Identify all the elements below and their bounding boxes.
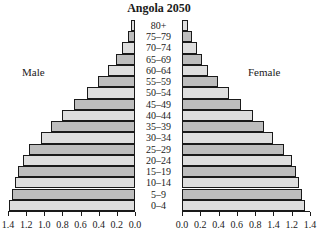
male-axis-tick-label: 0.2 bbox=[111, 219, 124, 230]
pyramid-row: 50–54 bbox=[0, 87, 318, 98]
female-bar bbox=[182, 177, 299, 188]
male-bar bbox=[128, 31, 135, 42]
pyramid-bars: 80+75–7970–7465–6960–6455–5950–5445–4940… bbox=[0, 20, 318, 211]
pyramid-row: 15–19 bbox=[0, 166, 318, 177]
pyramid-row: 30–34 bbox=[0, 132, 318, 143]
age-group-label: 75–79 bbox=[135, 31, 182, 42]
male-axis-tick-label: 0.0 bbox=[129, 219, 142, 230]
axis-tick bbox=[99, 212, 100, 216]
female-bar bbox=[182, 99, 241, 110]
male-axis-tick-label: 0.4 bbox=[92, 219, 105, 230]
male-bar bbox=[87, 87, 135, 98]
male-bar bbox=[41, 132, 135, 143]
axis-tick bbox=[135, 212, 136, 216]
male-axis-tick-label: 0.8 bbox=[56, 219, 69, 230]
male-bar bbox=[29, 144, 135, 155]
age-group-label: 30–34 bbox=[135, 132, 182, 143]
female-bar bbox=[182, 189, 302, 200]
male-axis-tick-label: 1.4 bbox=[2, 219, 15, 230]
axis-tick bbox=[273, 212, 274, 216]
male-bar bbox=[74, 99, 135, 110]
male-axis-tick-label: 1.0 bbox=[38, 219, 51, 230]
age-group-label: 25–29 bbox=[135, 144, 182, 155]
female-bar bbox=[182, 42, 197, 53]
male-bar bbox=[51, 121, 135, 132]
female-axis-tick-label: 1.4 bbox=[267, 219, 280, 230]
axis-tick bbox=[81, 212, 82, 216]
pyramid-row: 35–39 bbox=[0, 121, 318, 132]
male-bar bbox=[98, 76, 135, 87]
age-group-label: 5–9 bbox=[135, 189, 182, 200]
female-axis-tick-label: 0.2 bbox=[194, 219, 207, 230]
female-bar bbox=[182, 31, 192, 42]
axis-tick bbox=[182, 212, 183, 216]
female-bar bbox=[182, 166, 296, 177]
male-bar bbox=[108, 65, 135, 76]
female-bar bbox=[182, 155, 292, 166]
male-bar bbox=[62, 110, 135, 121]
age-group-label: 50–54 bbox=[135, 87, 182, 98]
male-bar bbox=[122, 42, 135, 53]
male-bar bbox=[12, 189, 135, 200]
male-axis-tick-label: 1.2 bbox=[20, 219, 33, 230]
axis-tick bbox=[26, 212, 27, 216]
age-group-label: 35–39 bbox=[135, 121, 182, 132]
male-bar bbox=[9, 200, 135, 211]
age-group-label: 45–49 bbox=[135, 99, 182, 110]
age-group-label: 65–69 bbox=[135, 54, 182, 65]
male-bar bbox=[23, 155, 135, 166]
female-axis-tick-label: 0.8 bbox=[249, 219, 262, 230]
axis-tick bbox=[237, 212, 238, 216]
male-bar bbox=[18, 166, 135, 177]
pyramid-row: 65–69 bbox=[0, 54, 318, 65]
male-x-axis bbox=[8, 211, 135, 218]
axis-tick bbox=[219, 212, 220, 216]
axis-tick bbox=[310, 212, 311, 216]
age-group-label: 55–59 bbox=[135, 76, 182, 87]
female-bar bbox=[182, 87, 229, 98]
pyramid-row: 10–14 bbox=[0, 177, 318, 188]
female-axis-tick-label: 1.2 bbox=[285, 219, 298, 230]
pyramid-row: 60–64 bbox=[0, 65, 318, 76]
male-axis-tick-label: 0.6 bbox=[74, 219, 87, 230]
chart-title: Angola 2050 bbox=[0, 1, 318, 16]
female-bar bbox=[182, 132, 273, 143]
axis-tick bbox=[255, 212, 256, 216]
axis-tick bbox=[8, 212, 9, 216]
pyramid-row: 20–24 bbox=[0, 155, 318, 166]
female-bar bbox=[182, 144, 284, 155]
pyramid-row: 70–74 bbox=[0, 42, 318, 53]
age-group-label: 15–19 bbox=[135, 166, 182, 177]
female-bar bbox=[182, 54, 202, 65]
pyramid-row: 0–4 bbox=[0, 200, 318, 211]
female-bar bbox=[182, 110, 253, 121]
pyramid-row: 40–44 bbox=[0, 110, 318, 121]
pyramid-row: 75–79 bbox=[0, 31, 318, 42]
female-bar bbox=[182, 76, 218, 87]
female-axis-tick-label: 0.4 bbox=[212, 219, 225, 230]
pyramid-row: 25–29 bbox=[0, 144, 318, 155]
axis-tick bbox=[44, 212, 45, 216]
axis-tick bbox=[200, 212, 201, 216]
axis-tick bbox=[292, 212, 293, 216]
female-bar bbox=[182, 20, 188, 31]
age-group-label: 10–14 bbox=[135, 177, 182, 188]
female-bar bbox=[182, 200, 305, 211]
male-bar bbox=[116, 54, 135, 65]
male-bar bbox=[15, 177, 135, 188]
female-x-axis bbox=[182, 211, 310, 218]
female-axis-tick-label: 0.6 bbox=[231, 219, 244, 230]
female-axis-tick-label: 0.0 bbox=[176, 219, 189, 230]
pyramid-row: 80+ bbox=[0, 20, 318, 31]
age-group-label: 0–4 bbox=[135, 200, 182, 211]
female-axis-tick-label: 1.4 bbox=[304, 219, 317, 230]
pyramid-row: 45–49 bbox=[0, 99, 318, 110]
axis-tick bbox=[117, 212, 118, 216]
female-bar bbox=[182, 65, 208, 76]
age-group-label: 80+ bbox=[135, 20, 182, 31]
female-bar bbox=[182, 121, 264, 132]
age-group-label: 20–24 bbox=[135, 155, 182, 166]
age-group-label: 60–64 bbox=[135, 65, 182, 76]
pyramid-row: 5–9 bbox=[0, 189, 318, 200]
age-group-label: 40–44 bbox=[135, 110, 182, 121]
